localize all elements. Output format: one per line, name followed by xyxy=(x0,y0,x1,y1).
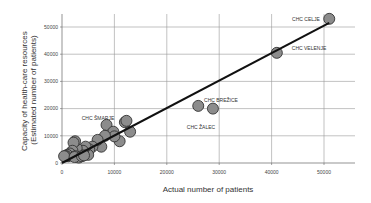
point-annotations: CHC CELJECHC VELENJECHC BREŽICECHC ŽALEC… xyxy=(82,16,327,130)
data-point xyxy=(193,100,204,111)
x-tick-label: 20000 xyxy=(160,169,174,175)
point-label: CHC VELENJE xyxy=(292,45,327,51)
y-axis-title-line2: (Estimated number of patients) xyxy=(29,35,38,145)
x-tick-label: 30000 xyxy=(212,169,226,175)
y-tick-label: 30000 xyxy=(44,78,58,84)
y-axis-ticks: 01000020000300004000050000 xyxy=(44,24,62,166)
point-label: CHC BREŽICE xyxy=(204,96,239,103)
data-point xyxy=(207,103,218,114)
y-tick-label: 0 xyxy=(55,160,58,166)
x-tick-label: 10000 xyxy=(107,169,121,175)
point-label: CHC CELJE xyxy=(292,16,320,22)
y-tick-label: 40000 xyxy=(44,51,58,57)
scatter-chart: 01000020000300004000050000 0100002000030… xyxy=(0,0,371,203)
x-axis-ticks: 01000020000300004000050000 xyxy=(61,163,332,175)
data-point xyxy=(121,115,132,126)
regression-line xyxy=(62,23,329,163)
point-label: CHC ŽALEC xyxy=(187,123,216,130)
y-axis-title-line1: Capacity of health-care resources xyxy=(20,31,29,151)
point-label: CHC ŠMARJE xyxy=(82,115,115,121)
x-tick-label: 40000 xyxy=(265,169,279,175)
y-tick-label: 10000 xyxy=(44,133,58,139)
x-axis-title: Actual number of patients xyxy=(163,185,254,194)
y-axis-title: Capacity of health-care resources (Estim… xyxy=(20,29,38,151)
x-tick-label: 0 xyxy=(61,169,64,175)
x-tick-label: 50000 xyxy=(317,169,331,175)
data-point xyxy=(324,13,335,24)
data-points xyxy=(59,13,335,163)
y-tick-label: 50000 xyxy=(44,24,58,30)
y-tick-label: 20000 xyxy=(44,105,58,111)
